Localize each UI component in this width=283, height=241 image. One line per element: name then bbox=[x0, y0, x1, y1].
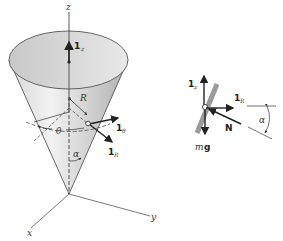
svg-text:z: z bbox=[193, 83, 198, 90]
free-body-diagram: 1 z 1 R N m g α bbox=[188, 76, 276, 152]
fb-particle bbox=[202, 104, 207, 109]
reference-line-normal bbox=[248, 127, 272, 139]
fb-alpha-label: α bbox=[259, 115, 265, 125]
weight-g-label: g bbox=[204, 142, 210, 152]
y-axis-label: y bbox=[150, 212, 157, 222]
unit-vector-z-label: 1 bbox=[74, 41, 80, 51]
particle bbox=[86, 121, 91, 126]
axes: x y bbox=[27, 194, 157, 238]
svg-text:θ: θ bbox=[122, 127, 126, 134]
weight-mass-label: m bbox=[195, 142, 204, 152]
cone-diagram: x y z 1 z R θ 1 θ 1 bbox=[0, 0, 283, 241]
radius-label: R bbox=[79, 93, 87, 103]
normal-force-arrow bbox=[209, 109, 241, 124]
y-axis bbox=[69, 194, 150, 216]
svg-text:R: R bbox=[239, 97, 245, 104]
alpha-label: α bbox=[73, 149, 79, 159]
svg-text:R: R bbox=[113, 151, 119, 158]
normal-force-label: N bbox=[225, 123, 233, 133]
x-axis-label: x bbox=[27, 228, 32, 238]
z-axis-label: z bbox=[65, 2, 71, 12]
x-axis bbox=[31, 194, 69, 228]
theta-label: θ bbox=[56, 126, 62, 136]
